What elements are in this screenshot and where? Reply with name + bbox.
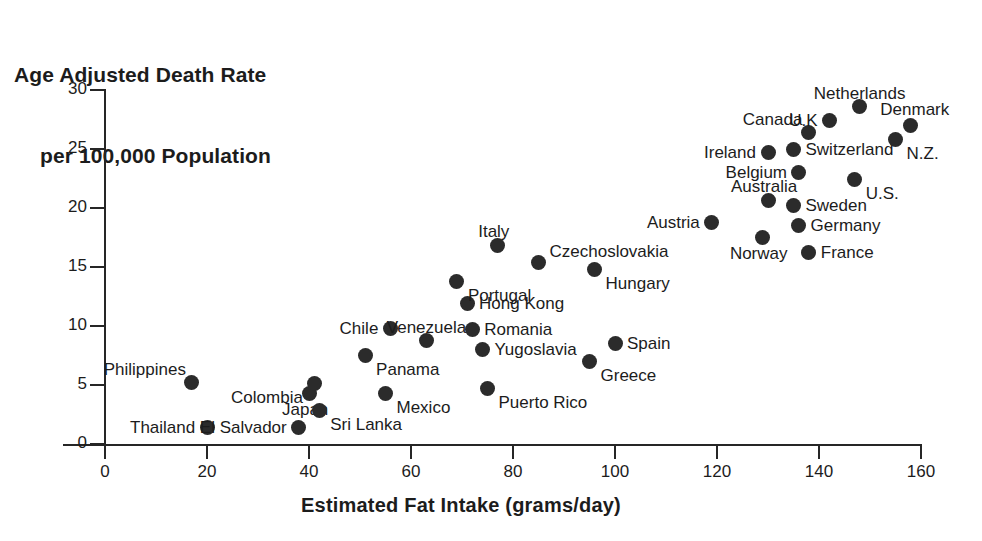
x-tick-label: 20	[177, 462, 237, 482]
data-point-label: Switzerland	[806, 141, 894, 158]
data-point-label: Mexico	[397, 399, 451, 416]
data-point	[791, 165, 806, 180]
data-point-label: Portugal	[468, 287, 531, 304]
y-tick-label: 30	[47, 79, 87, 99]
data-point-label: Sweden	[806, 197, 867, 214]
data-point-label: Czechoslovakia	[550, 243, 669, 260]
data-point	[587, 262, 602, 277]
data-point	[291, 420, 306, 435]
data-point-label: Spain	[627, 335, 670, 352]
data-point	[786, 198, 801, 213]
data-point-label: Norway	[730, 245, 788, 262]
y-tick	[90, 325, 105, 327]
data-point	[704, 215, 719, 230]
y-tick	[90, 89, 105, 91]
y-tick	[90, 148, 105, 150]
data-point-label: Thailand	[130, 419, 195, 436]
data-point-label: Romania	[484, 321, 552, 338]
data-point-label: Philippines	[104, 361, 186, 378]
data-point	[888, 132, 903, 147]
data-point-label: France	[821, 244, 874, 261]
y-tick-label: 10	[47, 315, 87, 335]
data-point	[847, 172, 862, 187]
y-tick-label: 0	[47, 433, 87, 453]
scatter-plot: 051015202530020406080100120140160 Philip…	[0, 0, 982, 541]
data-point	[801, 245, 816, 260]
x-tick	[512, 446, 514, 459]
data-point-label: Denmark	[880, 101, 949, 118]
data-point	[822, 113, 837, 128]
data-point-label: El Salvador	[200, 419, 287, 436]
y-tick	[90, 266, 105, 268]
data-point-label: U.S.	[866, 185, 899, 202]
data-point-label: Puerto Rico	[499, 394, 588, 411]
data-point-label: Sri Lanka	[330, 416, 402, 433]
data-point	[358, 348, 373, 363]
x-tick-label: 120	[687, 462, 747, 482]
data-point	[307, 376, 322, 391]
data-point	[475, 342, 490, 357]
data-point-label: Venezuela	[387, 319, 466, 336]
x-tick	[308, 446, 310, 459]
y-tick-label: 5	[47, 374, 87, 394]
x-tick	[716, 446, 718, 459]
data-point-label: Greece	[601, 367, 657, 384]
x-tick	[206, 446, 208, 459]
x-tick-label: 140	[789, 462, 849, 482]
y-tick-label: 20	[47, 197, 87, 217]
data-point	[791, 218, 806, 233]
x-tick-label: 60	[381, 462, 441, 482]
x-tick	[614, 446, 616, 459]
data-point	[184, 375, 199, 390]
data-point-label: Austria	[647, 214, 700, 231]
data-point	[480, 381, 495, 396]
x-tick-label: 80	[483, 462, 543, 482]
data-point-label: Ireland	[704, 144, 756, 161]
data-point-label: Hungary	[606, 275, 670, 292]
x-tick	[104, 446, 106, 459]
data-point-label: N.Z.	[907, 145, 939, 162]
y-tick	[90, 443, 105, 445]
data-point-label: Belgium	[726, 164, 787, 181]
x-tick	[818, 446, 820, 459]
data-point	[531, 255, 546, 270]
x-tick-label: 0	[75, 462, 135, 482]
x-tick	[920, 446, 922, 459]
data-point	[755, 230, 770, 245]
x-tick-label: 160	[891, 462, 951, 482]
data-point	[608, 336, 623, 351]
chart-page: Age Adjusted Death Rate per 100,000 Popu…	[0, 0, 982, 541]
data-point-label: Germany	[811, 217, 881, 234]
data-point	[449, 274, 464, 289]
data-point-label: Yugoslavia	[494, 341, 576, 358]
x-axis-title: Estimated Fat Intake (grams/day)	[0, 494, 982, 517]
y-tick	[90, 384, 105, 386]
x-tick-label: 40	[279, 462, 339, 482]
data-point-label: Chile	[340, 320, 379, 337]
data-point	[465, 322, 480, 337]
x-tick	[410, 446, 412, 459]
data-point	[786, 142, 801, 157]
y-tick-label: 25	[47, 138, 87, 158]
data-point	[378, 386, 393, 401]
data-point-label: Panama	[376, 361, 439, 378]
data-point	[582, 354, 597, 369]
data-point-label: U.K	[789, 112, 817, 129]
data-point-label: Colombia	[231, 389, 303, 406]
y-tick	[90, 207, 105, 209]
data-point	[761, 145, 776, 160]
y-tick-label: 15	[47, 256, 87, 276]
x-axis-title-text: Estimated Fat Intake (grams/day)	[301, 494, 681, 516]
x-axis-line	[63, 444, 922, 446]
data-point-label: Italy	[478, 223, 509, 240]
data-point	[903, 118, 918, 133]
x-tick-label: 100	[585, 462, 645, 482]
